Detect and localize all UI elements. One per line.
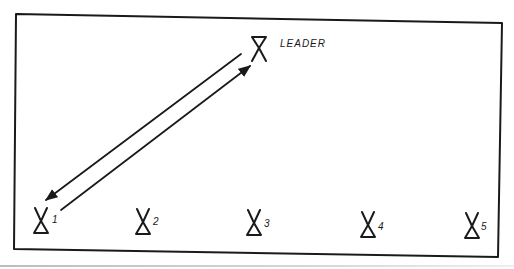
player-label: 5 — [481, 221, 487, 232]
page-edge-rule — [0, 265, 514, 267]
leader-cone-icon — [252, 37, 266, 61]
player-label: 2 — [152, 216, 159, 227]
player-cone-icon — [465, 213, 479, 238]
arrow-leader-to-player-1 — [46, 54, 241, 200]
player-2: 2 — [136, 209, 159, 234]
player-label: 4 — [378, 221, 384, 232]
player-cone-icon — [34, 208, 48, 233]
player-cone-icon — [136, 209, 150, 234]
player-label: 3 — [264, 218, 270, 229]
player-3: 3 — [247, 210, 270, 235]
arrow-player-1-to-leader — [61, 66, 250, 210]
drill-diagram: LEADER 1 2 3 4 — [0, 0, 514, 269]
player-cone-icon — [247, 210, 261, 235]
leader-label: LEADER — [280, 38, 326, 49]
player-1: 1 — [34, 208, 58, 233]
player-label: 1 — [52, 214, 58, 225]
player-5: 5 — [465, 213, 487, 238]
player-4: 4 — [361, 212, 384, 237]
player-cone-icon — [361, 212, 375, 237]
